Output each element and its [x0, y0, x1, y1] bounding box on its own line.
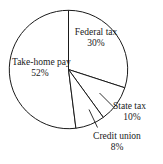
slice-label-federal-tax: Federal tax 30%: [74, 27, 118, 48]
slice-label-take-home-pay-percent: 52%: [12, 68, 68, 79]
slice-label-take-home-pay-name: Take-home pay: [12, 57, 68, 68]
slice-label-state-tax-name: State tax: [113, 101, 161, 112]
slice-label-take-home-pay: Take-home pay 52%: [12, 57, 68, 78]
slice-label-credit-union-name: Credit union: [79, 131, 155, 142]
slice-label-federal-tax-percent: 30%: [74, 38, 118, 49]
slice-label-state-tax-percent: 10%: [113, 112, 161, 123]
slice-label-credit-union-percent: 8%: [79, 142, 155, 153]
slice-label-credit-union: Credit union 8%: [79, 131, 155, 152]
pie-chart-figure: Federal tax 30% Take-home pay 52% State …: [0, 0, 163, 164]
slice-label-federal-tax-name: Federal tax: [74, 27, 118, 38]
slice-label-state-tax: State tax 10%: [113, 101, 161, 122]
